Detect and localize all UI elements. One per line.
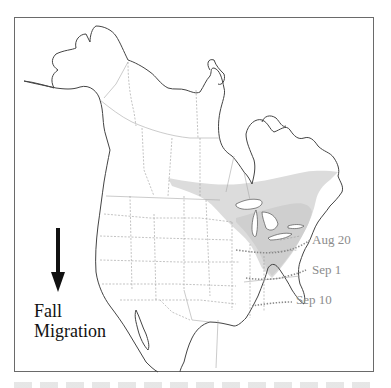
arctic-island-2 (262, 116, 286, 126)
alaska-west-coast (24, 26, 200, 93)
alaska-coastline (24, 81, 110, 306)
baja-coastline (110, 306, 158, 372)
hudson-bay-coastline (200, 68, 252, 184)
isochrone-label-sep-10: Sep 10 (296, 292, 332, 308)
gulf-coastline (180, 322, 234, 372)
cropped-caption-strip (14, 378, 374, 388)
legend-title: Fall Migration (34, 301, 106, 341)
isochrone-line-sep-10 (252, 302, 292, 306)
arrow-down-icon (51, 228, 65, 292)
isochrone-label-aug-20: Aug 20 (312, 232, 351, 248)
legend-title-line2: Migration (34, 321, 106, 341)
isochrone-label-sep-1: Sep 1 (312, 262, 341, 278)
baja-peninsula (135, 310, 149, 350)
legend-title-line1: Fall (34, 301, 106, 321)
